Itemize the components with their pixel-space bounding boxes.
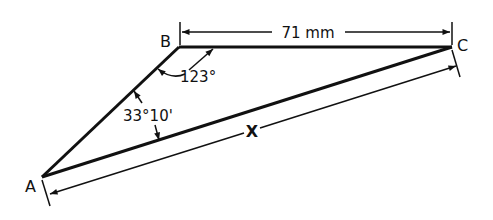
vertex-c-label: C xyxy=(457,36,468,55)
triangle-diagram: 71 mm X 123° 33°10' B C A xyxy=(0,0,493,220)
angle-a-label: 33°10' xyxy=(123,107,173,125)
vertex-a-label: A xyxy=(25,177,36,196)
bc-length-label: 71 mm xyxy=(281,24,334,42)
ac-unknown-label: X xyxy=(246,122,259,141)
vertex-b-label: B xyxy=(160,32,171,51)
side-ac xyxy=(42,47,452,177)
extension-line-a xyxy=(42,180,50,206)
angle-b-label: 123° xyxy=(180,68,216,86)
triangle-sides xyxy=(42,47,452,177)
